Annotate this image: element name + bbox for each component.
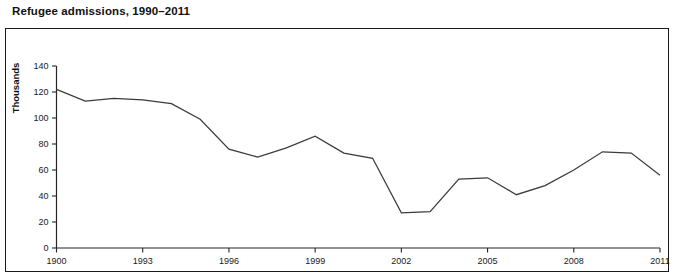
y-tick-label: 60 — [38, 165, 48, 175]
series-line-refugee-admissions — [57, 89, 661, 212]
y-axis-label: Thousands — [10, 28, 21, 148]
figure-refugee-admissions: Refugee admissions, 1990–2011 0204060801… — [0, 0, 674, 277]
x-tick-label: 1993 — [133, 256, 153, 266]
x-tick-label: 2008 — [564, 256, 584, 266]
x-tick-label: 1999 — [305, 256, 325, 266]
y-tick-label: 120 — [33, 87, 48, 97]
y-tick-label: 140 — [33, 61, 48, 71]
chart-axes — [57, 66, 661, 248]
x-tick-label: 2002 — [391, 256, 411, 266]
line-chart-svg: 020406080100120140 190019931996199920022… — [0, 0, 674, 277]
y-axis-ticks: 020406080100120140 — [33, 61, 56, 253]
x-axis-ticks: 19001993199619992002200520082011 — [46, 248, 669, 266]
y-tick-label: 40 — [38, 191, 48, 201]
x-tick-label: 2011 — [650, 256, 669, 266]
x-tick-label: 2005 — [478, 256, 498, 266]
y-tick-label: 20 — [38, 217, 48, 227]
y-tick-label: 0 — [43, 243, 48, 253]
plot-area: 020406080100120140 190019931996199920022… — [0, 0, 674, 277]
y-tick-label: 100 — [33, 113, 48, 123]
y-tick-label: 80 — [38, 139, 48, 149]
x-tick-label: 1900 — [46, 256, 66, 266]
x-tick-label: 1996 — [219, 256, 239, 266]
